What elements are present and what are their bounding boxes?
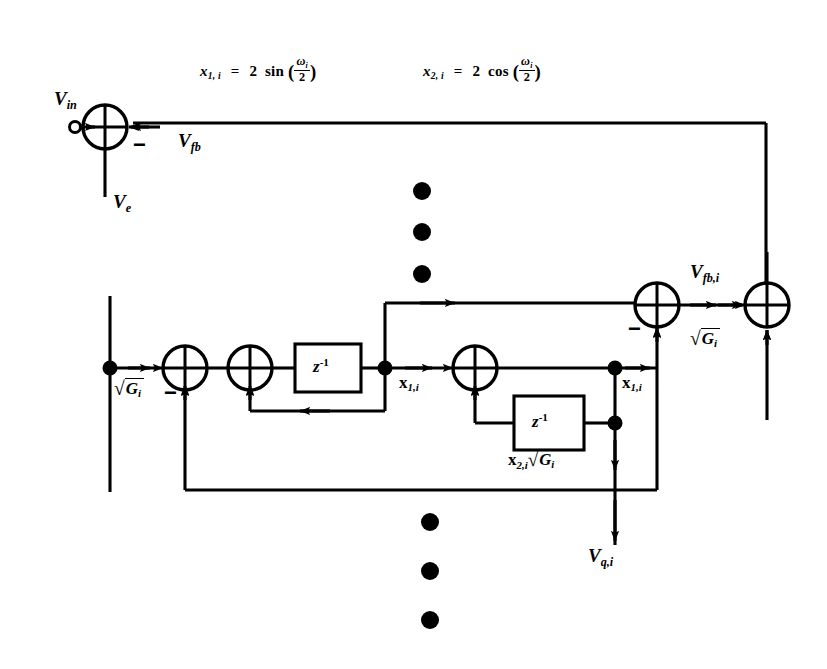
figure-canvas: x1, i = 2 sin (ωi2) x2, i = 2 cos (ωi2) …: [0, 0, 827, 669]
ellipsis-dot: [421, 562, 439, 580]
ellipsis-dot: [413, 182, 431, 200]
summing-junction-output-bus: [745, 283, 789, 327]
delay-block-2: [514, 396, 584, 450]
input-terminal-circle: [70, 122, 81, 133]
node-dot-delay2-out: [608, 416, 623, 431]
ellipsis-dot: [413, 223, 431, 241]
ellipsis-dot: [421, 611, 439, 629]
delay-block-1: [295, 344, 361, 392]
ellipsis-lower: [421, 513, 439, 629]
node-dot-x1i-right: [608, 361, 623, 376]
node-dot-x1i-left: [378, 361, 393, 376]
summing-junction-feedback: [635, 283, 679, 327]
summing-junctions-group: [83, 105, 789, 390]
ellipsis-upper: [413, 182, 431, 283]
node-dot-left-bus: [103, 361, 118, 376]
ellipsis-dot: [413, 265, 431, 283]
summing-junction-resonator-b: [228, 346, 272, 390]
summing-junction-resonator-c: [453, 346, 497, 390]
block-diagram: [0, 0, 827, 669]
summing-junction-resonator-a: [163, 346, 207, 390]
ellipsis-dot: [421, 513, 439, 531]
